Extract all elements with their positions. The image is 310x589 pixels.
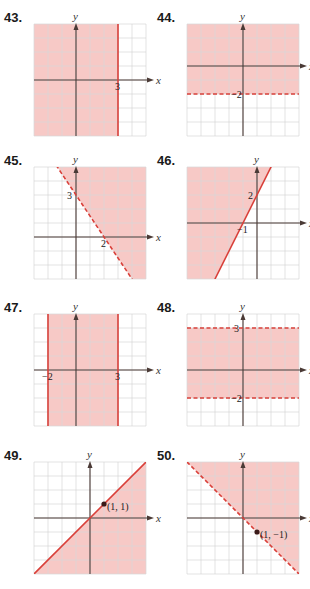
y-axis-label: y	[239, 448, 245, 460]
graph-plot: xy32	[4, 153, 154, 293]
y-axis-label: y	[239, 300, 245, 312]
x-axis-arrow-icon	[147, 516, 154, 521]
data-point	[101, 501, 106, 506]
tick-label: −2	[42, 371, 53, 382]
tick-label: 3	[234, 323, 239, 334]
y-axis-label: y	[72, 300, 78, 312]
tick-label: −1	[237, 224, 248, 235]
graph-panel: 44.xy−2	[157, 10, 307, 150]
tick-label: 2	[101, 238, 106, 249]
graph-plot: xy(1, −1)	[157, 448, 307, 588]
data-point	[254, 529, 259, 534]
x-axis-label: x	[308, 217, 310, 229]
graph-panel: 48.xy3−2	[157, 300, 307, 440]
graph-panel: 45.xy32	[4, 153, 154, 293]
x-axis-arrow-icon	[147, 235, 154, 240]
tick-label: 3	[115, 81, 120, 92]
graph-plot: xy3	[4, 10, 154, 150]
y-axis-label: y	[239, 10, 245, 22]
point-label: (1, 1)	[107, 501, 129, 513]
graph-plot: xy3−2	[157, 300, 307, 440]
point-label: (1, −1)	[260, 529, 287, 541]
tick-label: −2	[231, 393, 242, 404]
x-axis-arrow-icon	[300, 516, 307, 521]
graph-plot: xy(1, 1)	[4, 448, 154, 588]
y-axis-label: y	[72, 10, 78, 22]
tick-label: 3	[115, 371, 120, 382]
y-axis-label: y	[253, 153, 259, 165]
graph-plot: xy−2	[157, 10, 307, 150]
x-axis-arrow-icon	[300, 368, 307, 373]
graph-plot: xy−23	[4, 300, 154, 440]
y-axis-label: y	[72, 153, 78, 165]
x-axis-label: x	[308, 512, 310, 524]
graph-panel: 47.xy−23	[4, 300, 154, 440]
graph-plot: xy2−1	[157, 153, 307, 293]
x-axis-arrow-icon	[300, 221, 307, 226]
x-axis-label: x	[308, 60, 310, 72]
graph-panel: 50.xy(1, −1)	[157, 448, 307, 588]
tick-label: −2	[231, 89, 242, 100]
x-axis-arrow-icon	[147, 368, 154, 373]
y-axis-label: y	[86, 448, 92, 460]
x-axis-arrow-icon	[300, 64, 307, 69]
graph-panel: 43.xy3	[4, 10, 154, 150]
graph-panel: 46.xy2−1	[157, 153, 307, 293]
tick-label: 2	[248, 190, 253, 201]
graph-panel: 49.xy(1, 1)	[4, 448, 154, 588]
tick-label: 3	[67, 190, 72, 201]
x-axis-label: x	[308, 364, 310, 376]
x-axis-arrow-icon	[147, 78, 154, 83]
